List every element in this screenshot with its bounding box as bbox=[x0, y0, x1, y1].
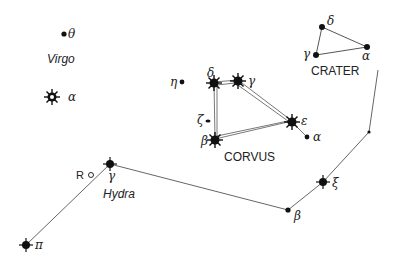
corvus-label: CORVUS bbox=[224, 150, 275, 164]
hydra-gamma-label: γ bbox=[108, 169, 116, 183]
hydra-figure-line bbox=[26, 70, 378, 245]
hydra-pi-label: π bbox=[34, 238, 44, 252]
corvus-gamma-star bbox=[230, 73, 246, 89]
crater-label: CRATER bbox=[311, 64, 360, 78]
hydra-r-label: R bbox=[76, 169, 84, 181]
hydra-beta-star bbox=[285, 207, 290, 212]
crater-figure-line bbox=[316, 27, 367, 55]
corvus-zeta-label: ζ bbox=[197, 113, 205, 127]
star-chart: θ Virgo α η δ γ ζ ε β α CORVUS δ γ α CRA… bbox=[0, 0, 400, 258]
corvus-delta-label: δ bbox=[207, 66, 214, 80]
virgo-theta-label: θ bbox=[68, 27, 76, 41]
corvus-epsilon-label: ε bbox=[301, 114, 307, 128]
virgo-alpha-label: α bbox=[68, 90, 76, 104]
hydra-r-variable-star bbox=[89, 173, 94, 178]
crater-alpha-label: α bbox=[362, 49, 370, 63]
virgo-alpha-star bbox=[44, 89, 60, 105]
hydra-beta-label: β bbox=[293, 209, 301, 223]
corvus-alpha-star bbox=[305, 135, 310, 140]
hydra-vertex-star bbox=[367, 130, 370, 133]
corvus-zeta-star bbox=[206, 120, 211, 123]
corvus-gamma-label: γ bbox=[248, 74, 256, 88]
corvus-eta-star bbox=[180, 80, 185, 85]
corvus-beta-star bbox=[207, 132, 223, 148]
hydra-label: Hydra bbox=[103, 187, 135, 201]
crater-gamma-star bbox=[313, 52, 319, 58]
corvus-alpha-label: α bbox=[313, 130, 321, 144]
virgo-label: Virgo bbox=[47, 52, 75, 66]
corvus-beta-label: β bbox=[200, 134, 208, 148]
crater-delta-label: δ bbox=[327, 14, 334, 28]
crater-delta-star bbox=[319, 24, 325, 30]
virgo-theta-star bbox=[61, 31, 66, 36]
corvus-eta-label: η bbox=[170, 75, 178, 89]
corvus-figure-line bbox=[214, 80, 307, 139]
hydra-xi-label: ξ bbox=[332, 176, 340, 190]
crater-gamma-label: γ bbox=[303, 47, 311, 61]
